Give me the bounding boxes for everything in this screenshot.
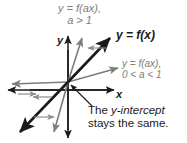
curve-shallow-stretch [12, 68, 118, 84]
callout-text: The y-intercept stays the same. [88, 104, 169, 130]
label-shallow-curve-line2: 0 < a < 1 [122, 69, 161, 80]
callout-text-prefix: The [88, 104, 111, 116]
label-steep-curve-line2: a > 1 [58, 14, 101, 26]
label-base-curve: y = f(x) [116, 29, 155, 42]
label-steep-curve: y = f(ax), a > 1 [58, 2, 101, 27]
callout-leader-line [71, 85, 92, 106]
label-steep-curve-line1: y = f(ax), [58, 2, 101, 14]
curve-shallow-stretch-left [12, 82, 68, 84]
graph-figure: y = f(ax), a > 1 y = f(x) y = f(ax), 0 <… [0, 0, 187, 143]
label-shallow-curve: y = f(ax), 0 < a < 1 [122, 58, 161, 80]
callout-text-line2: stays the same. [88, 117, 169, 130]
callout-text-italic: y-intercept [111, 104, 165, 116]
label-shallow-curve-line1: y = f(ax), [122, 58, 161, 69]
x-axis-label: x [116, 88, 122, 100]
y-axis-label: y [57, 34, 63, 46]
